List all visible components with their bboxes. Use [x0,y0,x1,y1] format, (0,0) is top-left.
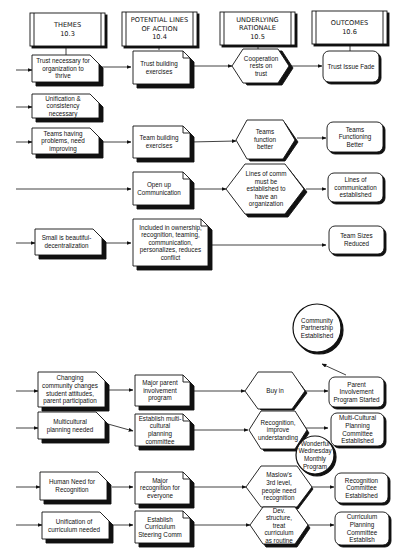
outcome-box: Recognition Committee Established [335,473,388,503]
theme-card: Human Need for Recognition [40,472,104,500]
header-underlying-rationale: UNDERLYING RATIONALE 10.5 [224,12,291,45]
action-document: Open up Communication [133,172,185,205]
outcome-box: Parent Involvement Program Started [329,377,384,407]
outcome-box: Trust Issue Fade [323,51,379,82]
header-themes: THEMES 10.3 [34,13,101,46]
circle-community-partnership: Community Partnership Established [299,310,335,346]
header-outcomes: OUTCOMES 10.6 [316,11,383,44]
header-potential-code: 10.4 [152,33,167,41]
header-themes-code: 10.3 [60,30,75,38]
outcome-box: Curriculum Planning Committee Establish [335,512,389,545]
theme-card: Trust necessary for organization to thri… [32,55,94,82]
action-document: Trust building exercises [133,51,185,84]
action-document: Major recognition for everyone [135,472,185,504]
header-outcomes-title: OUTCOMES [331,19,369,27]
header-themes-title: THEMES [54,21,81,29]
outcome-box: Multi-Cultural Planning Committee Establ… [331,413,384,446]
theme-card: Small is beautiful-decentralization [35,229,98,255]
theme-card: Unification & consistency necessary [32,94,94,118]
rationale-hexagon: Dev. structure, treat curriculum as rout… [259,507,299,544]
outcome-box: Lines of communication established [328,173,383,202]
header-potential-lines-of-action: POTENTIAL LINES OF ACTION 10.4 [126,12,193,46]
action-document: Team building exercises [133,126,185,158]
outcome-box: Team Sizes Reduced [329,226,384,254]
action-document: Included in ownership, recognition, team… [133,219,208,266]
rationale-hexagon: Buy in [256,372,294,409]
outcome-box: Teams Functioning Better [327,122,383,152]
rationale-hexagon: Lines of comm must be established to hav… [240,164,292,214]
theme-card: Changing community changes student attit… [38,372,102,407]
action-document: Major parent involvement program [135,375,185,406]
rationale-hexagon: Maslow's 3rd level, people need recognit… [258,466,300,507]
header-outcomes-code: 10.6 [342,28,357,36]
header-rationale-title: UNDERLYING RATIONALE [227,16,288,33]
theme-card: Multicultural planning needed [38,412,102,439]
action-document: Establish multi-cultural planning commit… [135,414,185,446]
rationale-hexagon: Cooperation rests on trust [242,49,280,83]
rationale-hexagon: Recognition, improve understanding [258,411,298,449]
action-document: Establish Curriculum Steering Comm [135,511,185,543]
rationale-hexagon: Teams function better [246,120,284,159]
theme-card: Unification of curriculum needed [42,512,106,539]
theme-card: Teams having problems, need improving [32,128,94,154]
header-potential-title: POTENTIAL LINES OF ACTION [129,16,190,33]
circle-wonderful-wednesday: Wonderful Wednesday Monthly Program [299,439,331,471]
header-rationale-code: 10.5 [250,33,265,41]
